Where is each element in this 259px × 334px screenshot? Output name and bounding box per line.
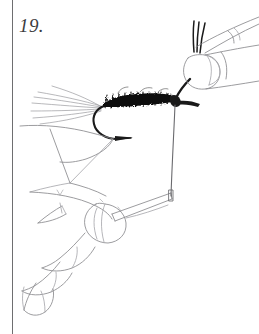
illustration-canvas	[0, 0, 259, 334]
thread-to-upper-hand	[176, 79, 190, 98]
detail-ticks	[57, 190, 121, 211]
hook-eye-wraps	[170, 95, 200, 107]
thread-strands-top	[193, 21, 205, 53]
upper-right-hand	[184, 17, 259, 89]
tail-fibers	[31, 86, 101, 124]
mid-left-finger	[20, 125, 113, 196]
bobbin-tool	[112, 190, 173, 221]
fly-body-dubbing	[103, 92, 173, 108]
figure-page: 19.	[0, 0, 259, 334]
lower-left-hand	[22, 192, 126, 315]
thread-vertical	[171, 105, 175, 196]
